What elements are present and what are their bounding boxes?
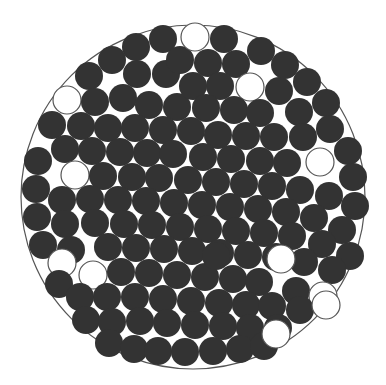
filled-disk bbox=[247, 37, 275, 65]
filled-disk bbox=[286, 296, 314, 324]
filled-disk bbox=[38, 111, 66, 139]
filled-disk bbox=[24, 147, 52, 175]
filled-disk bbox=[189, 143, 217, 171]
filled-disk bbox=[209, 312, 237, 340]
filled-disk bbox=[81, 88, 109, 116]
filled-disk bbox=[293, 68, 321, 96]
filled-disk bbox=[149, 116, 177, 144]
filled-disk bbox=[289, 123, 317, 151]
filled-disk bbox=[93, 283, 121, 311]
filled-disk bbox=[220, 96, 248, 124]
filled-disk bbox=[202, 242, 230, 270]
filled-disk bbox=[51, 210, 79, 238]
filled-disk bbox=[339, 163, 367, 191]
filled-disk bbox=[22, 175, 50, 203]
filled-disk bbox=[122, 33, 150, 61]
filled-disk bbox=[234, 241, 262, 269]
filled-disk bbox=[177, 287, 205, 315]
filled-disk bbox=[246, 147, 274, 175]
filled-disk bbox=[181, 311, 209, 339]
filled-disk bbox=[135, 259, 163, 287]
filled-disk bbox=[51, 135, 79, 163]
filled-disk bbox=[160, 189, 188, 217]
filled-disk bbox=[121, 283, 149, 311]
filled-disk bbox=[300, 204, 328, 232]
filled-disk bbox=[316, 115, 344, 143]
filled-disk bbox=[192, 94, 220, 122]
filled-disk bbox=[121, 114, 149, 142]
empty-disk bbox=[262, 320, 290, 348]
filled-disk bbox=[76, 185, 104, 213]
filled-disk bbox=[226, 335, 254, 363]
filled-disk bbox=[177, 117, 205, 145]
filled-disk bbox=[123, 60, 151, 88]
filled-disk bbox=[271, 51, 299, 79]
filled-disk bbox=[341, 192, 369, 220]
filled-disk bbox=[48, 186, 76, 214]
empty-disk bbox=[267, 245, 295, 273]
filled-disk bbox=[285, 98, 313, 126]
filled-disk bbox=[150, 235, 178, 263]
filled-disk bbox=[312, 89, 340, 117]
filled-disk bbox=[260, 123, 288, 151]
empty-disk bbox=[312, 291, 340, 319]
filled-disk bbox=[178, 237, 206, 265]
filled-disk bbox=[109, 84, 137, 112]
filled-disk bbox=[265, 77, 293, 105]
filled-disk bbox=[144, 337, 172, 365]
filled-disk bbox=[75, 62, 103, 90]
filled-disk bbox=[132, 187, 160, 215]
filled-disk bbox=[126, 307, 154, 335]
filled-disk bbox=[138, 211, 166, 239]
filled-disk bbox=[98, 46, 126, 74]
filled-disk bbox=[94, 233, 122, 261]
filled-disk bbox=[171, 338, 199, 366]
filled-disk bbox=[133, 139, 161, 167]
filled-disk bbox=[153, 309, 181, 337]
filled-disk bbox=[318, 256, 346, 284]
filled-disk bbox=[122, 234, 150, 262]
empty-disk bbox=[306, 148, 334, 176]
filled-disk bbox=[149, 285, 177, 313]
filled-disk bbox=[334, 137, 362, 165]
filled-disk bbox=[23, 203, 51, 231]
filled-disk bbox=[232, 122, 260, 150]
filled-disk bbox=[159, 140, 187, 168]
filled-disk bbox=[95, 329, 123, 357]
filled-disk bbox=[106, 138, 134, 166]
filled-disk bbox=[120, 335, 148, 363]
filled-disk bbox=[104, 186, 132, 214]
filled-disk bbox=[217, 145, 245, 173]
filled-disk bbox=[107, 258, 135, 286]
filled-disk bbox=[272, 198, 300, 226]
filled-disk bbox=[72, 306, 100, 334]
filled-disk bbox=[94, 114, 122, 142]
filled-disk bbox=[199, 337, 227, 365]
empty-disk bbox=[181, 23, 209, 51]
circle-packing-diagram bbox=[0, 0, 386, 385]
empty-disk bbox=[236, 73, 264, 101]
filled-disk bbox=[273, 149, 301, 177]
filled-disk bbox=[216, 193, 244, 221]
filled-disk bbox=[219, 265, 247, 293]
empty-disk bbox=[61, 161, 89, 189]
filled-disk bbox=[78, 137, 106, 165]
filled-disk bbox=[81, 209, 109, 237]
empty-disk bbox=[53, 86, 81, 114]
filled-disk bbox=[67, 112, 95, 140]
filled-disk bbox=[244, 195, 272, 223]
filled-disk bbox=[163, 261, 191, 289]
filled-disk bbox=[188, 191, 216, 219]
filled-disk bbox=[210, 25, 238, 53]
filled-disk bbox=[110, 210, 138, 238]
